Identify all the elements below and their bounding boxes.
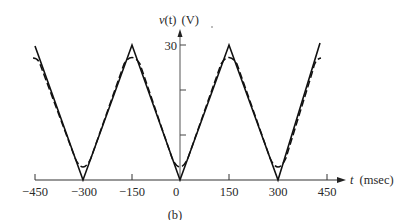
figure-caption: (b) — [168, 208, 183, 220]
x-axis-label: t (msec) — [350, 173, 394, 187]
triangle-wave-figure: −450 −300 −150 0 150 300 450 t (msec) 30… — [0, 0, 412, 220]
y-axis-label: v(t) (V) — [159, 13, 199, 27]
x-tick-label: −150 — [119, 185, 145, 199]
x-tick-label: 150 — [220, 185, 239, 199]
triangle-wave-solid-line — [35, 43, 320, 180]
x-axis-arrow-icon — [337, 177, 346, 183]
x-tick-label: 0 — [173, 185, 179, 199]
stray-dot — [211, 26, 213, 28]
x-axis: −450 −300 −150 0 150 300 450 t (msec) — [22, 173, 394, 199]
y-tick-label-30: 30 — [165, 39, 178, 53]
x-tick-label: −450 — [22, 185, 48, 199]
y-ticks — [180, 45, 186, 135]
x-tick-label: 300 — [269, 185, 288, 199]
x-tick-label: 450 — [318, 185, 337, 199]
y-axis: 30 v(t) (V) — [159, 13, 213, 180]
y-axis-arrow-icon — [178, 29, 183, 37]
x-tick-labels: −450 −300 −150 0 150 300 450 — [22, 185, 336, 199]
x-tick-label: −300 — [71, 185, 97, 199]
fourier-approx-dashed-line — [33, 58, 321, 168]
